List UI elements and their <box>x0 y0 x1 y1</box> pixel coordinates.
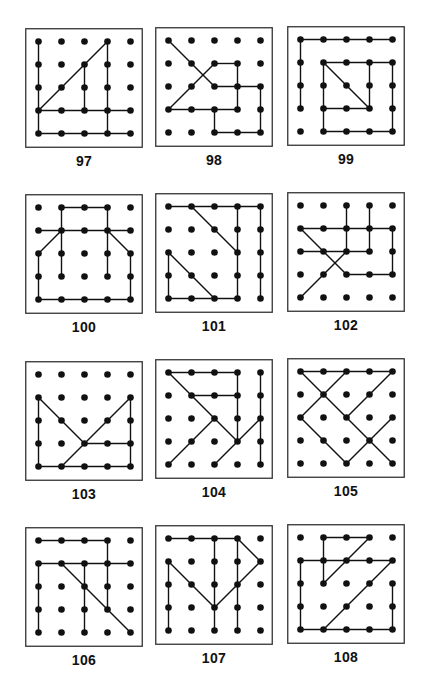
peg-dot-icon <box>389 557 396 564</box>
peg-dot-icon <box>366 225 373 232</box>
geoboard-grid <box>155 193 273 313</box>
peg-dot-icon <box>343 580 350 587</box>
peg-dot-icon <box>297 248 304 255</box>
peg-dot-icon <box>188 461 195 468</box>
peg-dot-icon <box>81 296 88 303</box>
peg-dot-icon <box>104 371 111 378</box>
peg-dot-icon <box>297 414 304 421</box>
peg-dot-icon <box>257 604 264 611</box>
geoboard-panel-103: 103 <box>25 361 143 502</box>
geoboard-grid <box>155 525 273 645</box>
peg-dot-icon <box>343 59 350 66</box>
peg-dot-icon <box>343 414 350 421</box>
geoboard-panel-107: 107 <box>155 525 273 666</box>
peg-dot-icon <box>343 368 350 375</box>
peg-dot-icon <box>165 581 172 588</box>
peg-dot-icon <box>343 294 350 301</box>
peg-dot-icon <box>127 629 134 636</box>
peg-dot-icon <box>257 535 264 542</box>
peg-dot-icon <box>320 248 327 255</box>
peg-dot-icon <box>188 558 195 565</box>
peg-dot-icon <box>81 61 88 68</box>
peg-dot-icon <box>104 296 111 303</box>
panel-number-label: 102 <box>287 317 405 333</box>
peg-dot-icon <box>257 226 264 233</box>
peg-dot-icon <box>188 226 195 233</box>
peg-dot-icon <box>165 203 172 210</box>
peg-dot-icon <box>343 437 350 444</box>
peg-dot-icon <box>58 38 65 45</box>
peg-dot-icon <box>320 626 327 633</box>
peg-dot-icon <box>127 250 134 257</box>
peg-dot-icon <box>165 226 172 233</box>
geoboard-panel-102: 102 <box>287 192 405 333</box>
geoboard-panel-100: 100 <box>25 194 143 335</box>
peg-dot-icon <box>188 581 195 588</box>
peg-dot-icon <box>234 272 241 279</box>
peg-dot-icon <box>81 250 88 257</box>
peg-dot-icon <box>35 250 42 257</box>
peg-dot-icon <box>366 368 373 375</box>
peg-dot-icon <box>81 606 88 613</box>
peg-dot-icon <box>58 250 65 257</box>
peg-dot-icon <box>211 106 218 113</box>
peg-dot-icon <box>35 296 42 303</box>
geoboard-grid <box>25 527 143 647</box>
peg-dot-icon <box>234 60 241 67</box>
peg-dot-icon <box>35 38 42 45</box>
peg-dot-icon <box>389 368 396 375</box>
peg-dot-icon <box>104 560 111 567</box>
peg-dot-icon <box>320 128 327 135</box>
segment-line <box>62 444 85 467</box>
peg-dot-icon <box>234 627 241 634</box>
peg-dot-icon <box>257 83 264 90</box>
peg-dot-icon <box>366 534 373 541</box>
peg-dot-icon <box>35 583 42 590</box>
peg-dot-icon <box>297 82 304 89</box>
peg-dot-icon <box>320 437 327 444</box>
geoboard-grid <box>287 192 405 312</box>
peg-dot-icon <box>104 273 111 280</box>
peg-dot-icon <box>297 225 304 232</box>
peg-dot-icon <box>81 130 88 137</box>
peg-dot-icon <box>188 106 195 113</box>
peg-dot-icon <box>257 272 264 279</box>
segment-line <box>324 561 393 630</box>
geoboard-panel-108: 108 <box>287 524 405 665</box>
peg-dot-icon <box>188 415 195 422</box>
geoboard-grid <box>25 28 143 148</box>
peg-dot-icon <box>58 629 65 636</box>
peg-dot-icon <box>211 604 218 611</box>
peg-dot-icon <box>297 580 304 587</box>
peg-dot-icon <box>257 369 264 376</box>
peg-dot-icon <box>297 460 304 467</box>
peg-dot-icon <box>320 580 327 587</box>
peg-dot-icon <box>188 129 195 136</box>
peg-dot-icon <box>389 603 396 610</box>
peg-dot-icon <box>389 414 396 421</box>
peg-dot-icon <box>127 560 134 567</box>
peg-dot-icon <box>389 202 396 209</box>
peg-dot-icon <box>257 581 264 588</box>
peg-dot-icon <box>389 271 396 278</box>
peg-dot-icon <box>366 557 373 564</box>
peg-dot-icon <box>81 560 88 567</box>
peg-dot-icon <box>297 437 304 444</box>
peg-dot-icon <box>211 369 218 376</box>
peg-dot-icon <box>188 438 195 445</box>
peg-dot-icon <box>165 415 172 422</box>
geoboard-panel-97: 97 <box>25 28 143 169</box>
peg-dot-icon <box>211 438 218 445</box>
peg-dot-icon <box>104 107 111 114</box>
peg-dot-icon <box>58 130 65 137</box>
peg-dot-icon <box>211 461 218 468</box>
peg-dot-icon <box>389 580 396 587</box>
peg-dot-icon <box>211 415 218 422</box>
peg-dot-icon <box>188 203 195 210</box>
peg-dot-icon <box>35 107 42 114</box>
peg-dot-icon <box>343 82 350 89</box>
geoboard-panel-99: 99 <box>287 26 405 167</box>
peg-dot-icon <box>58 371 65 378</box>
peg-dot-icon <box>257 129 264 136</box>
peg-dot-icon <box>257 438 264 445</box>
